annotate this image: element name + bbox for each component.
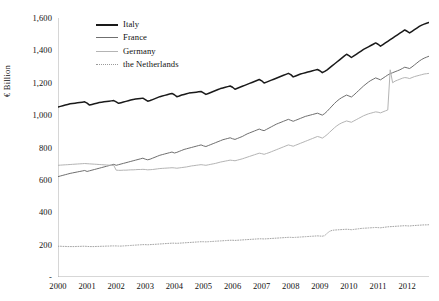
legend-label: Germany — [123, 46, 156, 56]
legend-label: France — [123, 32, 147, 42]
x-tick-label: 2005 — [195, 281, 212, 291]
legend-swatch-icon — [96, 46, 118, 56]
legend-swatch-icon — [96, 59, 118, 69]
chart-container: € Billion 1,6001,4001,2001,0008006004002… — [0, 0, 439, 301]
x-tick-label: 2007 — [253, 281, 270, 291]
legend-swatch-icon — [96, 32, 118, 42]
x-tick-label: 2003 — [137, 281, 154, 291]
x-tick-label: 2006 — [224, 281, 241, 291]
x-tick-label: 2011 — [370, 281, 387, 291]
legend-label: Italy — [123, 19, 139, 29]
legend-label: the Netherlands — [123, 59, 179, 69]
legend-item-italy: Italy — [96, 17, 179, 31]
legend-item-france: France — [96, 31, 179, 45]
x-tick-label: 2002 — [107, 281, 124, 291]
x-tick-label: 2009 — [311, 281, 328, 291]
legend-item-germany: Germany — [96, 44, 179, 58]
x-tick-label: 2010 — [340, 281, 357, 291]
x-tick-label: 2008 — [282, 281, 299, 291]
legend-item-the-netherlands: the Netherlands — [96, 58, 179, 72]
chart-legend: ItalyFranceGermanythe Netherlands — [96, 17, 179, 71]
x-tick-label: 2004 — [166, 281, 183, 291]
x-tick-label: 2001 — [78, 281, 95, 291]
x-tick-label: 2012 — [398, 281, 415, 291]
x-tick-label: 2000 — [49, 281, 66, 291]
legend-swatch-icon — [96, 19, 118, 29]
x-axis-tick-labels: 2000200120022003200420052006200720082009… — [0, 0, 439, 301]
